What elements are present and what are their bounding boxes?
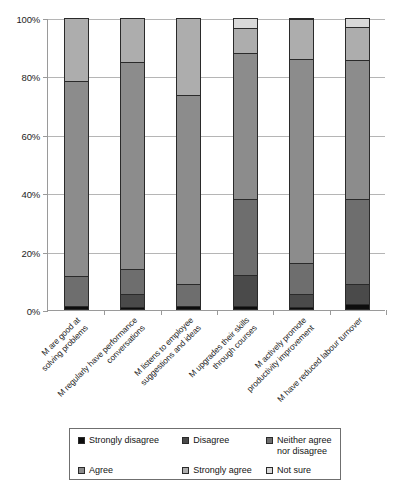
legend-row: Agree Strongly agree Not sure — [78, 465, 340, 487]
bar-segment[interactable] — [345, 60, 370, 199]
legend-item-label: Agree — [89, 465, 113, 476]
legend-item-label: Strongly agree — [193, 465, 252, 476]
x-axis-labels: M are good at solving problemsM regularl… — [0, 311, 400, 421]
bar-segment[interactable] — [64, 81, 89, 277]
bar-segment[interactable] — [120, 62, 145, 269]
legend-item-strongly-agree[interactable]: Strongly agree — [182, 465, 266, 476]
gridline — [48, 77, 385, 78]
gridline — [48, 19, 385, 20]
y-axis-tick — [43, 253, 48, 254]
stacked-bar-chart: 100% 80% 60% 40% 20% 0% M are good at so… — [0, 0, 400, 492]
legend-swatch-icon — [182, 467, 189, 474]
legend-item-not-sure[interactable]: Not sure — [266, 465, 340, 476]
bar-segment[interactable] — [233, 199, 258, 275]
gridline — [48, 253, 385, 254]
bar-segment[interactable] — [176, 95, 201, 283]
gridline — [48, 136, 385, 137]
bar-segment[interactable] — [345, 199, 370, 284]
bar-segment[interactable] — [345, 27, 370, 61]
legend-swatch-icon — [78, 437, 85, 444]
legend-item-label: Neither agree nor disagree — [277, 435, 332, 457]
bar-segment[interactable] — [64, 18, 89, 81]
legend-item-label: Disagree — [193, 435, 229, 446]
y-axis-tick-label: 20% — [0, 247, 40, 258]
bar-segment[interactable] — [289, 18, 314, 19]
bar-3[interactable] — [176, 19, 201, 310]
y-axis-tick-label: 100% — [0, 14, 40, 25]
bar-segment[interactable] — [120, 307, 145, 310]
bar-segment[interactable] — [345, 304, 370, 310]
y-axis-tick-label: 60% — [0, 130, 40, 141]
gridline — [48, 194, 385, 195]
bar-segment[interactable] — [289, 19, 314, 58]
legend-item-label: Not sure — [277, 465, 311, 476]
legend-swatch-icon — [266, 467, 273, 474]
bar-segment[interactable] — [120, 269, 145, 294]
bar-4[interactable] — [233, 19, 258, 310]
legend-item-neither-agree-nor-disagree[interactable]: Neither agree nor disagree — [266, 435, 340, 457]
plot-area — [47, 19, 385, 311]
bar-segment[interactable] — [120, 294, 145, 307]
legend-swatch-icon — [78, 467, 85, 474]
bar-segment[interactable] — [289, 263, 314, 294]
y-axis-tick — [43, 77, 48, 78]
bar-segment[interactable] — [176, 306, 201, 310]
y-axis-tick-label: 80% — [0, 72, 40, 83]
bar-segment[interactable] — [176, 18, 201, 95]
bar-6[interactable] — [345, 19, 370, 310]
bar-segment[interactable] — [233, 306, 258, 310]
legend-item-agree[interactable]: Agree — [78, 465, 182, 476]
legend-item-disagree[interactable]: Disagree — [182, 435, 266, 446]
legend-item-label: Strongly disagree — [89, 435, 159, 446]
legend-swatch-icon — [266, 437, 273, 444]
bar-segment[interactable] — [345, 18, 370, 27]
bar-segment[interactable] — [64, 276, 89, 305]
bar-segment[interactable] — [345, 284, 370, 304]
y-axis-tick — [43, 194, 48, 195]
bar-2[interactable] — [120, 19, 145, 310]
y-axis-tick — [43, 136, 48, 137]
bar-1[interactable] — [64, 19, 89, 310]
bar-segment[interactable] — [233, 275, 258, 306]
bar-segment[interactable] — [120, 18, 145, 62]
bar-segment[interactable] — [289, 307, 314, 310]
bar-segment[interactable] — [64, 306, 89, 310]
bar-segment[interactable] — [233, 53, 258, 199]
chart-legend: Strongly disagree Disagree Neither agree… — [69, 428, 341, 480]
legend-row: Strongly disagree Disagree Neither agree… — [78, 435, 340, 457]
legend-swatch-icon — [182, 437, 189, 444]
bar-segment[interactable] — [289, 59, 314, 263]
legend-item-strongly-disagree[interactable]: Strongly disagree — [78, 435, 182, 446]
bar-segment[interactable] — [233, 18, 258, 28]
bar-5[interactable] — [289, 19, 314, 310]
bar-segment[interactable] — [233, 28, 258, 53]
bar-segment[interactable] — [176, 284, 201, 306]
y-axis-tick-label: 40% — [0, 189, 40, 200]
bar-segment[interactable] — [289, 294, 314, 307]
y-axis-tick — [43, 19, 48, 20]
